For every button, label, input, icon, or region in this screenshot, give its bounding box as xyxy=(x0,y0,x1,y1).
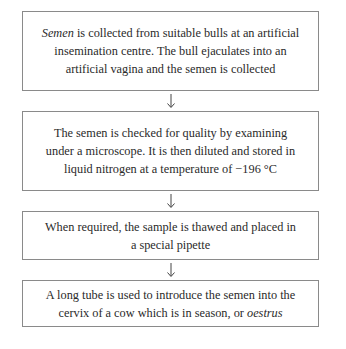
step-4-text: A long tube is used to introduce the sem… xyxy=(33,286,308,322)
step-1-box: Semen is collected from suitable bulls a… xyxy=(22,11,319,91)
step-1-italic-term: Semen xyxy=(42,26,74,40)
step-4-italic-term: oestrus xyxy=(247,306,283,320)
step-1-text: Semen is collected from suitable bulls a… xyxy=(41,24,300,78)
step-2-box: The semen is checked for quality by exam… xyxy=(22,111,319,191)
step-2-text: The semen is checked for quality by exam… xyxy=(41,124,300,178)
arrow-down-icon xyxy=(163,191,179,211)
arrow-down-icon xyxy=(163,260,179,280)
arrow-down-icon xyxy=(163,91,179,111)
step-3-box: When required, the sample is thawed and … xyxy=(22,211,319,260)
step-3-text: When required, the sample is thawed and … xyxy=(41,218,300,254)
step-4-box: A long tube is used to introduce the sem… xyxy=(22,280,319,327)
